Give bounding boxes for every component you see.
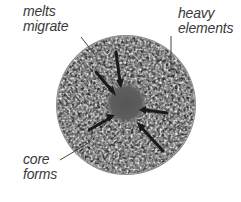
label-line: heavy xyxy=(178,6,233,21)
label-line: core xyxy=(23,152,57,167)
label-core-forms: core forms xyxy=(23,152,57,182)
label-line: forms xyxy=(23,167,57,182)
label-line: elements xyxy=(178,21,233,36)
label-line: melts xyxy=(23,4,68,19)
label-heavy-elements: heavy elements xyxy=(178,6,233,36)
label-line: migrate xyxy=(23,19,68,34)
label-melts-migrate: melts migrate xyxy=(23,4,68,34)
